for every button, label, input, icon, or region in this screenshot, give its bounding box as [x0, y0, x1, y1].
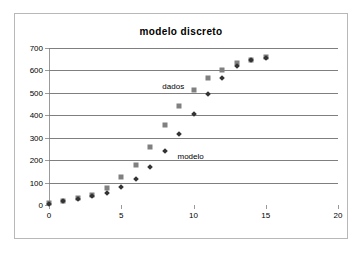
data-point	[205, 91, 211, 97]
gridline	[49, 138, 338, 139]
data-point	[176, 131, 182, 137]
data-point	[118, 184, 124, 190]
y-axis-line	[49, 48, 50, 205]
chart-title: modelo discreto	[15, 26, 347, 37]
series-annotation: dados	[162, 82, 184, 91]
y-axis-tick	[45, 183, 49, 184]
data-point	[133, 162, 138, 167]
data-point	[75, 196, 81, 202]
data-point	[147, 164, 153, 170]
y-axis-tick-label: 700	[30, 44, 43, 53]
y-axis-tick-label: 500	[30, 88, 43, 97]
data-point	[191, 87, 196, 92]
y-axis-tick	[45, 48, 49, 49]
gridline	[49, 70, 338, 71]
x-axis-tick	[266, 205, 267, 209]
y-axis-tick	[45, 93, 49, 94]
y-axis-tick	[45, 115, 49, 116]
x-axis-tick-label: 20	[334, 211, 343, 220]
data-point	[205, 75, 210, 80]
y-axis-tick-label: 600	[30, 66, 43, 75]
gridline	[49, 183, 338, 184]
x-axis-tick-label: 0	[47, 211, 51, 220]
y-axis-tick	[45, 70, 49, 71]
data-point	[119, 174, 124, 179]
data-point	[148, 144, 153, 149]
y-axis-tick	[45, 138, 49, 139]
data-point	[177, 103, 182, 108]
y-axis-tick-label: 200	[30, 156, 43, 165]
y-axis-tick-label: 0	[39, 201, 43, 210]
y-axis-tick-label: 400	[30, 111, 43, 120]
data-point	[162, 149, 168, 155]
plot-area: 0100200300400500600700 05101520 dadosmod…	[49, 48, 338, 205]
data-point	[220, 67, 225, 72]
series-annotation: modelo	[177, 152, 203, 161]
data-point	[162, 122, 167, 127]
y-axis-tick	[45, 160, 49, 161]
chart-frame: modelo discreto 0100200300400500600700 0…	[14, 13, 348, 239]
x-axis-tick	[338, 205, 339, 209]
x-axis-tick	[121, 205, 122, 209]
y-axis-tick-label: 300	[30, 133, 43, 142]
gridline	[49, 93, 338, 94]
data-point	[133, 176, 139, 182]
x-axis-tick	[194, 205, 195, 209]
x-axis-tick-label: 5	[119, 211, 123, 220]
data-point	[220, 75, 226, 81]
gridline	[49, 48, 338, 49]
data-point	[104, 190, 110, 196]
x-axis-tick-label: 10	[189, 211, 198, 220]
x-axis-tick-label: 15	[261, 211, 270, 220]
y-axis-tick-label: 100	[30, 178, 43, 187]
